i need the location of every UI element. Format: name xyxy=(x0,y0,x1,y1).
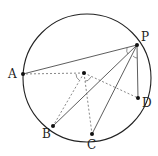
circle xyxy=(23,14,151,142)
radius-OB xyxy=(53,73,84,126)
segment-PA xyxy=(23,45,137,74)
point-P xyxy=(135,43,139,47)
label-D: D xyxy=(142,96,152,110)
angle-mark-CPD xyxy=(133,56,137,58)
radius-OA xyxy=(23,73,84,74)
radius-OC xyxy=(84,73,92,134)
point-C xyxy=(90,132,94,136)
angle-mark-COD xyxy=(85,77,91,81)
segment-PB xyxy=(53,45,137,126)
circle-diagram: A P B C D xyxy=(0,0,158,156)
center-point xyxy=(82,71,86,75)
segment-PC xyxy=(92,45,137,134)
point-D xyxy=(136,96,140,100)
point-B xyxy=(51,124,55,128)
label-C: C xyxy=(87,138,96,152)
angle-mark-APB xyxy=(127,48,128,54)
segment-PD xyxy=(137,45,138,98)
label-P: P xyxy=(141,30,149,44)
radius-OD xyxy=(84,73,138,98)
label-B: B xyxy=(42,127,51,141)
point-A xyxy=(21,72,25,76)
label-A: A xyxy=(7,67,17,81)
angle-mark-AOB xyxy=(76,74,79,80)
